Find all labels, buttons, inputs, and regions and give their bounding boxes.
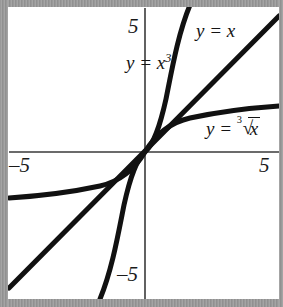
coordinate-plot <box>0 0 283 307</box>
y-axis-tick-top: 5 <box>128 16 139 37</box>
label-y-equals-x: y = x <box>196 21 235 40</box>
graph-figure: 5 –5 –5 5 y = x y = x3 y = 3√x <box>0 0 283 307</box>
x-axis-tick-left: –5 <box>9 155 30 176</box>
label-y-equals-cube-root-x: y = 3√x <box>206 117 260 138</box>
label-cubic-base: y = x <box>126 52 165 73</box>
label-cubic-exponent: 3 <box>165 51 171 65</box>
y-axis-tick-bottom: –5 <box>117 264 138 285</box>
label-y-equals-x-cubed: y = x3 <box>126 52 171 72</box>
radical-check-icon: √ <box>243 118 253 137</box>
radical-index: 3 <box>237 115 242 125</box>
label-cuberoot-prefix: y = <box>206 118 237 139</box>
x-axis-tick-right: 5 <box>259 155 270 176</box>
radical-sign: 3√x <box>237 117 260 138</box>
